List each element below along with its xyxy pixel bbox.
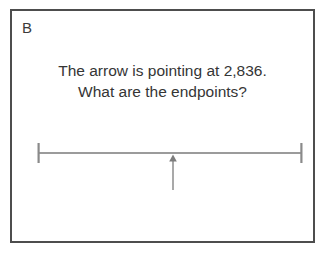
- arrow-head-icon: [169, 155, 177, 162]
- number-line-svg: [12, 11, 313, 241]
- screenshot-root: B The arrow is pointing at 2,836. What a…: [0, 0, 329, 257]
- question-card: B The arrow is pointing at 2,836. What a…: [10, 9, 315, 243]
- number-line-figure: [12, 11, 313, 241]
